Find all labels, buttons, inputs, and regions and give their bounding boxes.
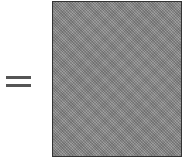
equals-icon-bottom-bar xyxy=(6,84,31,87)
shaded-rectangle xyxy=(52,1,182,157)
equals-icon-top-bar xyxy=(6,76,31,79)
